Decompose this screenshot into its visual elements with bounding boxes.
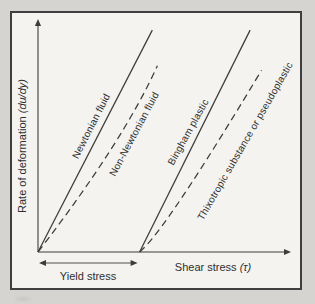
scan-smudge: [12, 296, 34, 302]
x-axis-label: Shear stress (τ): [175, 261, 251, 273]
y-axis-label: Rate of deformation (du/dy): [16, 79, 28, 213]
yield-stress-label: Yield stress: [60, 270, 116, 282]
y-axis-symbol: (du/dy): [16, 79, 28, 113]
x-axis-label-text: Shear stress: [175, 261, 237, 273]
figure-frame: [10, 11, 302, 290]
y-axis-label-text: Rate of deformation: [16, 116, 28, 213]
x-axis-symbol: (τ): [240, 261, 251, 273]
scanned-figure-page: Rate of deformation (du/dy) Shear stress…: [0, 0, 315, 304]
